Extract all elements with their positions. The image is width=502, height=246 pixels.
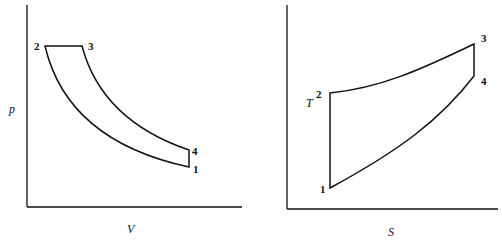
ts-point-4-label: 4 xyxy=(481,75,487,87)
pv-point-3-label: 3 xyxy=(88,40,94,52)
ts-point-3-label: 3 xyxy=(481,32,487,44)
pv-x-axis-label: V xyxy=(127,222,136,236)
ts-point-2-label: 2 xyxy=(316,88,322,100)
pv-diagram: 2 3 4 1 p V xyxy=(8,5,242,236)
ts-cycle-path xyxy=(330,44,474,188)
pv-y-axis-label: p xyxy=(8,102,15,116)
pv-point-1-label: 1 xyxy=(193,163,199,175)
pv-point-2-label: 2 xyxy=(34,40,40,52)
pv-cycle-path xyxy=(45,46,189,167)
ts-y-axis-label: T xyxy=(306,96,314,110)
ts-x-axis-label: S xyxy=(388,225,394,239)
ts-point-1-label: 1 xyxy=(320,183,326,195)
pv-point-4-label: 4 xyxy=(192,145,198,157)
ts-diagram: 3 4 2 1 T S xyxy=(287,5,498,239)
thermodynamic-cycle-figure: 2 3 4 1 p V 3 4 2 1 T S xyxy=(0,0,502,246)
